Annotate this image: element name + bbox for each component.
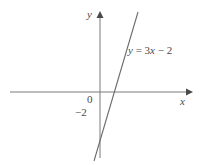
coordinate-graph-figure: y x 0 −2 y = 3x − 2 (0, 0, 201, 165)
x-axis-label: x (180, 96, 185, 107)
function-line (94, 12, 138, 161)
origin-label: 0 (87, 94, 93, 105)
equation-constant: − 2 (155, 44, 172, 56)
x-axis-arrowhead (186, 89, 193, 96)
graph-canvas (0, 0, 201, 165)
equation-label: y = 3x − 2 (128, 45, 172, 56)
equation-operator: = 3 (133, 44, 150, 56)
y-intercept-label: −2 (75, 107, 87, 118)
y-axis-arrowhead (97, 11, 104, 18)
y-axis-label: y (87, 9, 92, 20)
